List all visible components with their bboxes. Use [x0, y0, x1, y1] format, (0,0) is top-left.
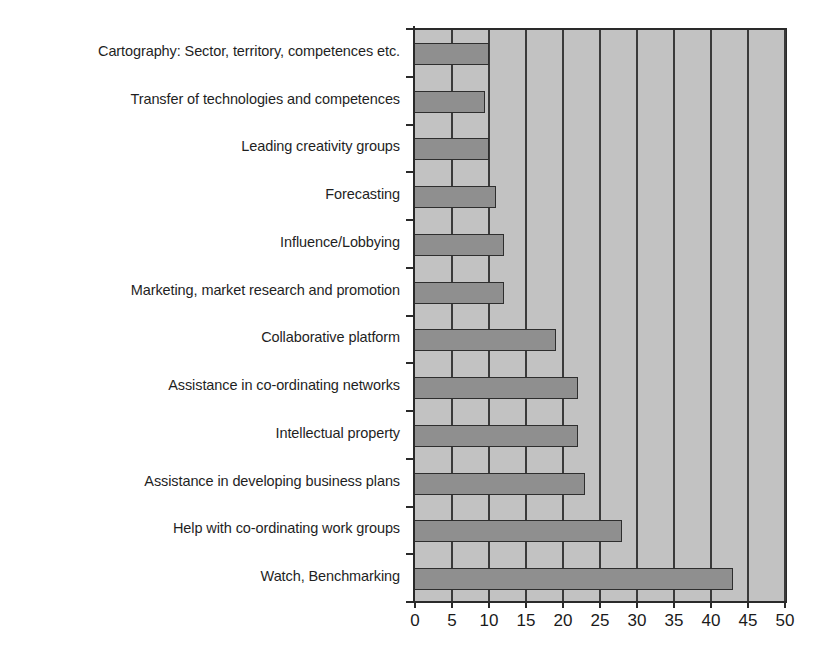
- x-tick-mark: [451, 601, 453, 608]
- x-tick-label: 0: [410, 611, 419, 631]
- bar: [415, 282, 504, 304]
- x-tick-label: 50: [776, 611, 795, 631]
- x-tick-label: 15: [517, 611, 536, 631]
- bar: [415, 234, 504, 256]
- x-axis-tick-labels: 05101520253035404550: [0, 611, 827, 641]
- y-tick-mark: [406, 267, 414, 269]
- category-label: Leading creativity groups: [0, 124, 408, 172]
- x-tick-mark: [673, 601, 675, 608]
- y-tick-mark: [406, 362, 414, 364]
- bar: [415, 568, 733, 590]
- bar-row: [415, 269, 785, 317]
- x-tick-label: 25: [591, 611, 610, 631]
- y-tick-mark: [406, 76, 414, 78]
- y-tick-mark: [406, 219, 414, 221]
- category-label: Cartography: Sector, territory, competen…: [0, 28, 408, 76]
- category-label: Help with co-ordinating work groups: [0, 506, 408, 554]
- y-tick-mark: [406, 458, 414, 460]
- bar: [415, 520, 622, 542]
- bar-row: [415, 555, 785, 603]
- x-tick-label: 40: [702, 611, 721, 631]
- x-tick-mark: [710, 601, 712, 608]
- x-tick-mark: [562, 601, 564, 608]
- bar-row: [415, 317, 785, 365]
- bar: [415, 138, 489, 160]
- y-tick-mark: [406, 601, 414, 603]
- x-tick-mark: [636, 601, 638, 608]
- y-tick-mark: [406, 315, 414, 317]
- category-label: Assistance in co-ordinating networks: [0, 362, 408, 410]
- bar-chart: Cartography: Sector, territory, competen…: [0, 0, 827, 668]
- bar-row: [415, 126, 785, 174]
- bar-row: [415, 173, 785, 221]
- bar: [415, 186, 496, 208]
- y-tick-mark: [406, 506, 414, 508]
- x-tick-mark: [525, 601, 527, 608]
- bar: [415, 43, 489, 65]
- x-tick-label: 45: [739, 611, 758, 631]
- category-label: Marketing, market research and promotion: [0, 267, 408, 315]
- plot-area: [415, 28, 787, 603]
- category-axis-labels: Cartography: Sector, territory, competen…: [0, 28, 408, 601]
- category-label: Transfer of technologies and competences: [0, 76, 408, 124]
- bar-row: [415, 78, 785, 126]
- y-tick-mark: [406, 28, 414, 30]
- x-tick-mark: [414, 601, 416, 608]
- bar-row: [415, 460, 785, 508]
- x-tick-label: 30: [628, 611, 647, 631]
- bar-row: [415, 221, 785, 269]
- x-tick-label: 35: [665, 611, 684, 631]
- category-label: Collaborative platform: [0, 315, 408, 363]
- x-tick-mark: [747, 601, 749, 608]
- bar: [415, 425, 578, 447]
- bar: [415, 329, 556, 351]
- x-tick-label: 10: [480, 611, 499, 631]
- x-tick-label: 20: [554, 611, 573, 631]
- bar-row: [415, 30, 785, 78]
- x-tick-mark: [599, 601, 601, 608]
- y-tick-mark: [406, 171, 414, 173]
- category-label: Influence/Lobbying: [0, 219, 408, 267]
- bar: [415, 377, 578, 399]
- bar-series: [415, 30, 785, 603]
- y-tick-mark: [406, 410, 414, 412]
- bar-row: [415, 508, 785, 556]
- category-label: Intellectual property: [0, 410, 408, 458]
- category-label: Assistance in developing business plans: [0, 458, 408, 506]
- x-tick-label: 5: [447, 611, 456, 631]
- bar-row: [415, 364, 785, 412]
- x-tick-mark: [784, 601, 786, 608]
- bar-row: [415, 412, 785, 460]
- category-label: Watch, Benchmarking: [0, 553, 408, 601]
- x-tick-mark: [488, 601, 490, 608]
- category-label: Forecasting: [0, 171, 408, 219]
- bar: [415, 91, 485, 113]
- y-tick-mark: [406, 553, 414, 555]
- y-tick-mark: [406, 124, 414, 126]
- bar: [415, 473, 585, 495]
